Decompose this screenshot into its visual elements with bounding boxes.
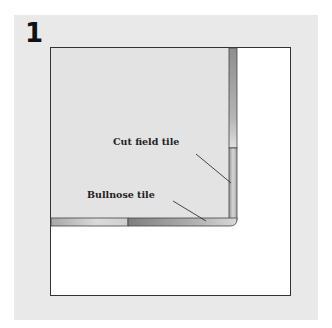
bullnose-tile-label: Bullnose tile (87, 189, 155, 200)
step-number: 1 (25, 18, 43, 48)
cut-field-tile-label: Cut field tile (113, 136, 179, 147)
